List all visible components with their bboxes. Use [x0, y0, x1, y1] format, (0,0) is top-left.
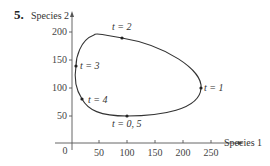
problem-number: 5. [14, 7, 24, 22]
point-t4 [80, 97, 83, 100]
point-t1 [199, 86, 202, 89]
axes [55, 11, 244, 150]
x-tick-label: 100 [120, 147, 135, 158]
y-tick-label: 150 [52, 54, 67, 65]
y-axis-arrow-icon [70, 11, 74, 17]
origin-label: 0 [63, 145, 68, 156]
label-t1: t = 1 [204, 82, 224, 93]
x-tick-label: 50 [94, 147, 104, 158]
x-tick-label: 150 [148, 147, 163, 158]
x-tick-label: 200 [176, 147, 191, 158]
y-axis-label: Species 2 [31, 10, 69, 21]
point-t3 [74, 64, 77, 67]
label-t3: t = 3 [80, 60, 100, 71]
label-t0: t = 0, 5 [112, 118, 142, 129]
x-axis-label: Species 1 [224, 137, 262, 148]
phase-plot: 5. Species 2 Species 1 200 150 100 50 0 … [0, 0, 270, 166]
label-t2: t = 2 [112, 21, 132, 32]
y-tick-label: 100 [52, 82, 67, 93]
y-tick-label: 50 [57, 110, 67, 121]
point-t2 [120, 36, 123, 39]
label-t4: t = 4 [88, 94, 108, 105]
y-tick-label: 200 [52, 26, 67, 37]
x-tick-label: 250 [204, 147, 219, 158]
